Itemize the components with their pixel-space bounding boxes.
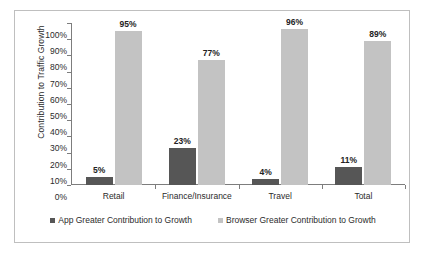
y-axis-tick-label: 60% xyxy=(50,95,67,104)
y-axis-tick-label: 30% xyxy=(50,144,67,153)
plot-area: Contribution to Traffic Growth 100%90%80… xyxy=(15,11,411,207)
y-axis-tick-mark xyxy=(67,39,71,40)
legend-item[interactable]: App Greater Contribution to Growth xyxy=(50,215,192,225)
bar-browser xyxy=(281,29,308,185)
y-axis-tick-mark xyxy=(67,185,71,186)
y-axis-tick-label: 10% xyxy=(50,176,67,185)
y-axis-tick-mark xyxy=(67,72,71,73)
y-axis-tick-label: 100% xyxy=(45,31,67,40)
bar-browser xyxy=(364,41,391,185)
bar-group: 4%96% xyxy=(239,23,322,185)
y-axis-tick-mark xyxy=(67,153,71,154)
bar-value-label: 89% xyxy=(364,30,391,39)
legend-label: App Greater Contribution to Growth xyxy=(58,215,192,225)
bar-value-label: 95% xyxy=(115,20,142,29)
y-axis-tick-label: 50% xyxy=(50,112,67,121)
legend-item[interactable]: Browser Greater Contribution to Growth xyxy=(218,215,376,225)
bar-value-label: 5% xyxy=(86,166,113,175)
x-axis-category-label: Retail xyxy=(72,191,155,201)
y-axis-tick-mark xyxy=(67,104,71,105)
bar-app xyxy=(86,177,113,185)
y-axis-tick-mark xyxy=(67,136,71,137)
legend-label: Browser Greater Contribution to Growth xyxy=(226,215,376,225)
chart-legend: App Greater Contribution to GrowthBrowse… xyxy=(15,215,411,225)
y-axis-tick-label: 40% xyxy=(50,128,67,137)
bar-value-label: 77% xyxy=(198,49,225,58)
bar-group: 11%89% xyxy=(322,23,405,185)
y-axis-tick-label: 90% xyxy=(50,47,67,56)
bar-app xyxy=(252,179,279,185)
legend-swatch-icon xyxy=(50,218,55,223)
y-axis-tick-mark xyxy=(67,88,71,89)
bar-browser xyxy=(115,31,142,185)
legend-swatch-icon xyxy=(218,218,223,223)
chart-frame: Contribution to Traffic Growth 100%90%80… xyxy=(14,10,410,243)
y-axis-tick-mark xyxy=(67,55,71,56)
bar-group: 5%95% xyxy=(72,23,155,185)
x-axis-tick-mark xyxy=(239,185,240,189)
x-axis-category-label: Total xyxy=(322,191,405,201)
bar-app xyxy=(335,167,362,185)
x-axis-tick-mark xyxy=(405,185,406,189)
bar-browser xyxy=(198,60,225,185)
bar-value-label: 23% xyxy=(169,137,196,146)
bar-group: 23%77% xyxy=(155,23,238,185)
y-axis-tick-label: 20% xyxy=(50,160,67,169)
bar-value-label: 4% xyxy=(252,168,279,177)
y-axis-tick-mark xyxy=(67,120,71,121)
y-axis-tick-labels: 100%90%80%70%60%50%40%30%20%10%0% xyxy=(37,23,67,185)
x-axis-category-label: Travel xyxy=(239,191,322,201)
x-axis-category-label: Finance/Insurance xyxy=(155,191,238,201)
y-axis-tick-label: 0% xyxy=(55,193,67,202)
y-axis-tick-label: 70% xyxy=(50,79,67,88)
y-axis-tick-mark xyxy=(67,23,71,24)
x-axis-tick-mark xyxy=(322,185,323,189)
x-axis-category-labels: RetailFinance/InsuranceTravelTotal xyxy=(72,191,405,205)
bars-container: 5%95%23%77%4%96%11%89% xyxy=(72,23,405,185)
bar-app xyxy=(169,148,196,185)
bar-value-label: 96% xyxy=(281,18,308,27)
x-axis-tick-mark xyxy=(155,185,156,189)
y-axis-tick-mark xyxy=(67,169,71,170)
bar-value-label: 11% xyxy=(335,156,362,165)
y-axis-tick-label: 80% xyxy=(50,63,67,72)
